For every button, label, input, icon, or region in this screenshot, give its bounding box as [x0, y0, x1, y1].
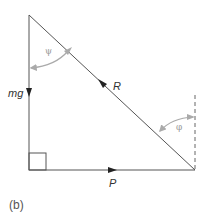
reaction-label: R — [113, 81, 121, 92]
force-triangle-diagram — [0, 0, 206, 219]
push-label: P — [109, 178, 116, 189]
weight-label: mg — [8, 88, 23, 99]
push-arrowhead-icon — [108, 167, 117, 173]
right-angle-marker — [29, 153, 46, 170]
figure-caption: (b) — [9, 199, 24, 211]
angle-psi-label: ψ — [45, 47, 52, 56]
reaction-vector-line — [29, 15, 195, 170]
weight-arrowhead-icon — [26, 88, 32, 97]
angle-phi-label: φ — [176, 123, 182, 132]
angle-phi-arc-start-arrowhead-icon — [187, 114, 195, 120]
